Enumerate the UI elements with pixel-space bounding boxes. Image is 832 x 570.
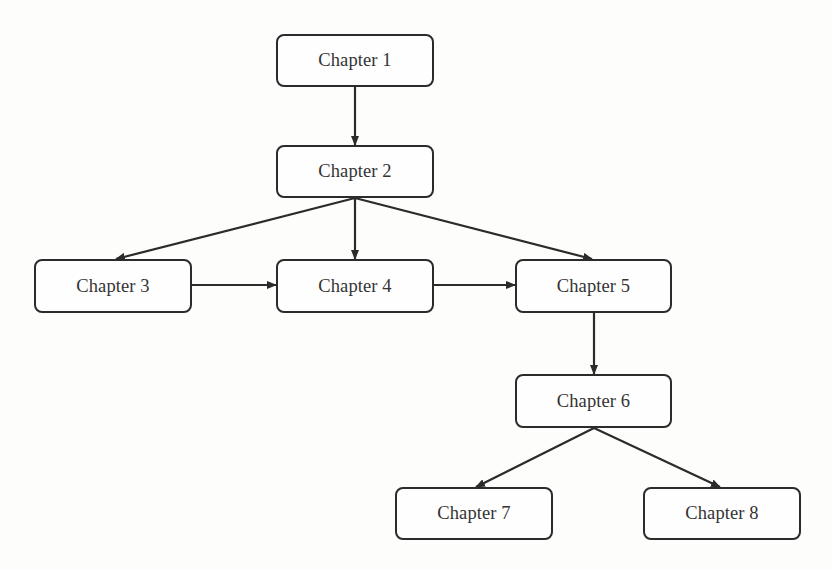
node-chapter-3: Chapter 3 xyxy=(34,259,192,313)
chapter-dependency-diagram: Chapter 1 Chapter 2 Chapter 3 Chapter 4 … xyxy=(0,0,832,570)
edge-ch2-ch3 xyxy=(116,198,355,259)
node-chapter-5: Chapter 5 xyxy=(515,259,672,313)
edge-ch6-ch8 xyxy=(594,428,720,487)
node-chapter-1: Chapter 1 xyxy=(276,34,434,87)
node-chapter-7: Chapter 7 xyxy=(395,487,553,540)
node-chapter-2: Chapter 2 xyxy=(276,145,434,198)
edge-ch6-ch7 xyxy=(476,428,594,487)
node-chapter-4: Chapter 4 xyxy=(276,259,434,313)
node-chapter-8: Chapter 8 xyxy=(643,487,801,540)
node-chapter-6: Chapter 6 xyxy=(515,374,672,428)
edge-ch2-ch5 xyxy=(355,198,592,259)
